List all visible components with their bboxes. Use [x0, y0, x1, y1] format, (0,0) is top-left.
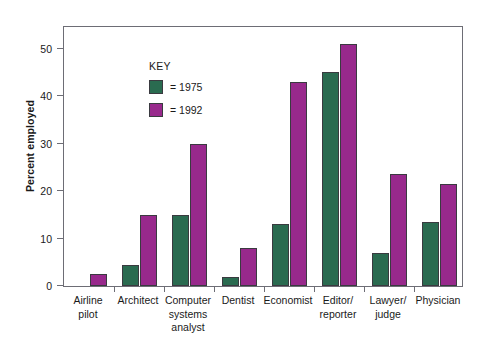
- y-tick-label: 20: [26, 183, 52, 199]
- bar-1975: [222, 277, 239, 286]
- legend-swatch-1992: [149, 103, 163, 117]
- y-tick-label: 30: [26, 136, 52, 152]
- bar-group: [72, 27, 107, 286]
- y-tick-mark: [57, 285, 64, 286]
- y-tick-mark: [57, 48, 64, 49]
- bar-1975: [272, 224, 289, 286]
- legend-label-1975: = 1975: [170, 81, 202, 93]
- bar-series-container: [64, 27, 462, 286]
- legend-item-1975: = 1975: [149, 78, 259, 96]
- bar-group: [322, 27, 357, 286]
- x-tick-mark: [164, 286, 165, 292]
- bar-1992: [390, 174, 407, 286]
- bar-1975: [372, 253, 389, 286]
- bar-1975: [422, 222, 439, 286]
- bar-group: [372, 27, 407, 286]
- y-tick-label: 40: [26, 88, 52, 104]
- y-tick-mark: [57, 190, 64, 191]
- bar-group: [422, 27, 457, 286]
- x-tick-mark: [264, 286, 265, 292]
- bar-chart-figure: Percent employed 01020304050 KEY = 1975=…: [0, 0, 491, 345]
- x-tick-mark: [364, 286, 365, 292]
- y-tick-label: 50: [26, 41, 52, 57]
- x-axis-category-labels: AirlinepilotArchitectComputersystemsanal…: [63, 294, 463, 342]
- y-tick-mark: [57, 238, 64, 239]
- legend-entries: = 1975= 1992: [149, 78, 259, 119]
- bar-1975: [172, 215, 189, 286]
- y-tick-label: 10: [26, 231, 52, 247]
- bar-1992: [90, 274, 107, 286]
- legend-label-1992: = 1992: [170, 104, 202, 116]
- y-tick-mark: [57, 143, 64, 144]
- legend: KEY = 1975= 1992: [149, 60, 259, 124]
- bar-1992: [240, 248, 257, 286]
- y-tick-mark: [57, 95, 64, 96]
- x-category-label-line: systems: [158, 308, 218, 322]
- x-category-label-line: analyst: [158, 321, 218, 335]
- bar-group: [272, 27, 307, 286]
- legend-item-1992: = 1992: [149, 101, 259, 119]
- x-category-label-line: pilot: [58, 308, 118, 322]
- bar-1992: [190, 144, 207, 286]
- x-tick-mark: [114, 286, 115, 292]
- x-tick-mark: [214, 286, 215, 292]
- bar-1992: [440, 184, 457, 286]
- bar-1992: [340, 44, 357, 286]
- y-tick-label: 0: [26, 278, 52, 294]
- bar-1975: [122, 265, 139, 286]
- legend-title: KEY: [149, 60, 259, 72]
- x-tick-mark: [414, 286, 415, 292]
- legend-swatch-1975: [149, 80, 163, 94]
- x-category-label-line: judge: [358, 308, 418, 322]
- x-tick-mark: [314, 286, 315, 292]
- x-category-label: Physician: [408, 294, 468, 308]
- plot-area: 01020304050 KEY = 1975= 1992: [63, 26, 463, 287]
- bar-1992: [290, 82, 307, 286]
- bar-1992: [140, 215, 157, 286]
- bar-1975: [322, 72, 339, 286]
- x-category-label-line: Physician: [408, 294, 468, 308]
